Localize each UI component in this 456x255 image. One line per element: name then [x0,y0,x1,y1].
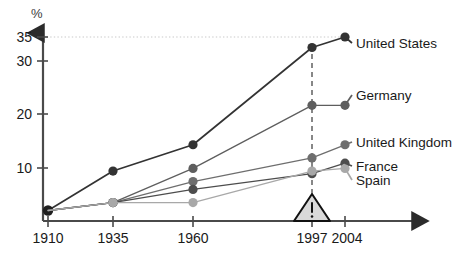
legend-item-germany[interactable]: Germany [345,88,412,106]
data-point [307,43,316,52]
data-point [108,166,117,175]
warning-marker-group [294,194,330,221]
y-tick-label-30: 30 [16,53,32,69]
y-axis-unit-label: % [31,6,43,21]
data-point [307,153,316,162]
series-line [48,105,345,210]
legend-label: United States [356,36,437,51]
data-point [307,166,316,175]
x-tick-label-2004: 2004 [331,230,362,246]
legend-label: Germany [356,88,412,103]
x-tick-label-1960: 1960 [177,230,208,246]
legend-item-united-states[interactable]: United States [345,36,437,51]
legend-label: Spain [356,173,391,188]
x-tick-label-1910: 1910 [32,230,63,246]
data-point [188,185,197,194]
series-france [48,159,350,211]
chart-container: 35 30 20 10 % 1910 1935 1960 1997 2004 U… [0,0,456,255]
data-point [188,140,197,149]
legend-label: United Kingdom [356,135,452,150]
y-tick-label-10: 10 [16,160,32,176]
legend-item-france[interactable]: France [345,159,398,174]
line-chart: 35 30 20 10 % 1910 1935 1960 1997 2004 U… [0,0,456,255]
data-point [307,101,316,110]
y-tick-label-35: 35 [16,29,32,45]
legend-label: France [356,159,398,174]
data-point [188,164,197,173]
data-point [188,177,197,186]
warning-exclamation-dot [311,215,314,218]
series-germany [48,101,350,211]
series-spain [48,164,350,211]
x-tick-label-1935: 1935 [97,230,128,246]
data-point [108,198,117,207]
data-point [188,198,197,207]
series-layer [43,32,350,215]
legend-layer: United StatesGermanyUnited KingdomFrance… [345,36,452,188]
legend-item-united-kingdom[interactable]: United Kingdom [345,135,452,150]
x-tick-label-1997: 1997 [296,230,327,246]
y-tick-label-20: 20 [16,106,32,122]
